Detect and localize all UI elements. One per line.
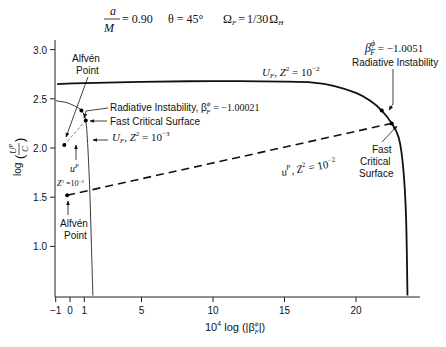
alfven-bottom-label-2: Point xyxy=(64,230,87,241)
series-layer xyxy=(56,81,408,296)
theta-param: θ = 45° xyxy=(168,12,204,26)
rad-inst-right-label: Radiative Instability xyxy=(352,57,438,68)
marker-rad-instability-z3 xyxy=(79,109,83,113)
up-z3-label-u: uP xyxy=(70,163,79,174)
spin-denominator: M xyxy=(103,21,115,35)
series-line-solid-thick xyxy=(57,81,407,296)
up-z3-label-z: Z2 =10−3 xyxy=(57,179,84,188)
x-axis-label: 104 log (|βϕF|) xyxy=(205,320,265,336)
svg-text:log: log xyxy=(12,163,23,176)
svg-text:UP: UP xyxy=(8,144,18,155)
omega-param: ΩF=1/30ΩH xyxy=(223,12,284,27)
fast-crit-right-label-1: Fast xyxy=(372,144,392,155)
x-tick-label: 5 xyxy=(139,305,145,316)
x-tick-label: −1 xyxy=(50,305,62,316)
marker-rad-instability-z2 xyxy=(380,109,384,113)
x-tick-label: 10 xyxy=(207,305,219,316)
svg-text:(: ( xyxy=(12,154,27,159)
rad-inst-z3-label: Radiative Instability, βϕF = −1.00021 xyxy=(110,100,259,116)
svg-text:ΩF=1/30ΩH: ΩF=1/30ΩH xyxy=(223,12,284,27)
alfven-top-arrow xyxy=(66,77,88,137)
x-tick-label: 0 xyxy=(67,305,73,316)
series-line-solid-thin xyxy=(56,101,93,296)
marker-alfven-point-z3 xyxy=(62,143,66,147)
y-tick-label: 3.0 xyxy=(33,45,47,56)
alfven-top-label-2: Point xyxy=(76,65,99,76)
svg-text:C: C xyxy=(20,145,30,152)
beta-right-label: βϕF = −1.0051 xyxy=(364,39,423,57)
marker-alfven-point-z2 xyxy=(65,193,69,197)
x-ticks: −1015101520 xyxy=(50,297,362,316)
chart: a M = 0.90 θ = 45° ΩF=1/30ΩH −1015101520… xyxy=(0,0,446,347)
header-params: a M = 0.90 θ = 45° ΩF=1/30ΩH xyxy=(103,4,284,35)
y-tick-label: 2.0 xyxy=(33,143,47,154)
x-tick-label: 1 xyxy=(82,305,88,316)
y-ticks: 1.01.52.02.53.0 xyxy=(33,45,55,253)
fast-crit-z3-label: Fast Critical Surface xyxy=(110,116,200,127)
fast-crit-right-label-2: Critical xyxy=(360,156,391,167)
y-tick-label: 2.5 xyxy=(33,94,47,105)
x-tick-label: 15 xyxy=(279,305,291,316)
marker-fast-critical-z2 xyxy=(390,121,394,125)
fast-crit-right-label-3: Surface xyxy=(359,168,394,179)
y-tick-label: 1.0 xyxy=(33,241,47,252)
spin-numerator: a xyxy=(110,4,116,18)
svg-text:): ) xyxy=(12,138,27,142)
y-tick-label: 1.5 xyxy=(33,192,47,203)
uf-z2-label: UF, Z2 = 10−2 xyxy=(262,65,320,80)
svg-text:104 log (|βϕF|): 104 log (|βϕF|) xyxy=(205,320,265,336)
annotations: Alfvén Point Radiative Instability, βϕF … xyxy=(57,39,438,241)
y-axis-label: log UP C ( ) xyxy=(8,138,30,176)
fast-crit-right-arrow xyxy=(382,126,397,142)
rad-inst-right-arrow-tip xyxy=(389,104,393,110)
x-tick-label: 20 xyxy=(350,305,362,316)
alfven-bottom-label-1: Alfvén xyxy=(60,218,88,229)
spin-value: = 0.90 xyxy=(122,12,153,26)
rad-inst-z3-arrow xyxy=(86,108,108,111)
alfven-top-label-1: Alfvén xyxy=(72,53,100,64)
up-z2-label: uP, Z2 = 10−2 xyxy=(280,156,337,178)
uf-z3-label: UF, Z2 = 10−3 xyxy=(112,130,170,145)
marker-fast-critical-z3 xyxy=(84,118,88,122)
